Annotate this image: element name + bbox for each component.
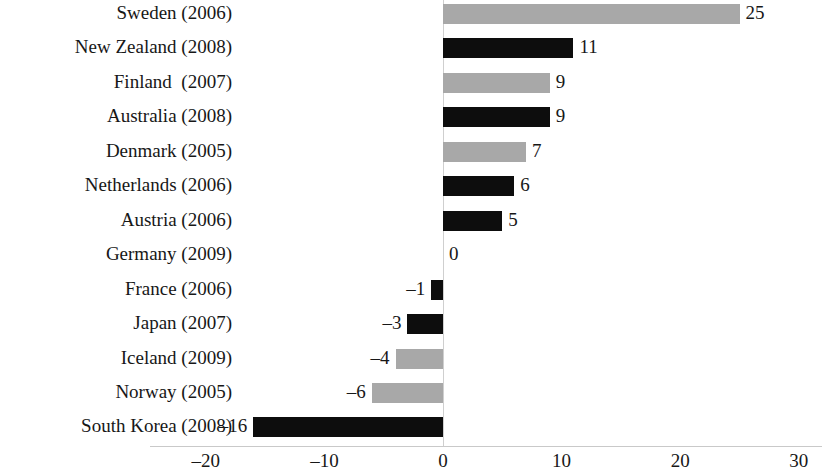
x-tick-label: –20	[192, 450, 221, 471]
bar	[443, 4, 740, 24]
bar-value-label: –1	[406, 279, 425, 299]
bar	[372, 383, 443, 403]
bar	[407, 314, 443, 334]
plot-area: 2511997650–1–3–4–6–16	[0, 0, 825, 447]
bar	[443, 211, 502, 231]
x-tick-label: 10	[552, 450, 571, 471]
x-tick-label: 20	[671, 450, 690, 471]
x-tick-label: 0	[438, 450, 448, 471]
bar-value-label: 9	[556, 106, 566, 126]
bar-value-label: 5	[508, 210, 518, 230]
bar	[443, 176, 514, 196]
bar-value-label: 6	[520, 175, 530, 195]
bar	[443, 73, 550, 93]
bar-value-label: –16	[219, 416, 248, 436]
bar	[443, 107, 550, 127]
bar-chart: Sweden (2006)New Zealand (2008)Finland (…	[0, 0, 825, 473]
bar-value-label: –6	[347, 382, 366, 402]
bar	[443, 142, 526, 162]
bar-value-label: 0	[449, 244, 459, 264]
x-axis-line	[150, 446, 822, 447]
bar-value-label: 9	[556, 72, 566, 92]
bar	[431, 280, 443, 300]
bar-value-label: 7	[532, 141, 542, 161]
x-tick-label: –10	[310, 450, 339, 471]
bar	[443, 38, 573, 58]
x-tick-label: 30	[789, 450, 808, 471]
bar-value-label: 25	[746, 3, 765, 23]
bar	[253, 417, 443, 437]
bar	[396, 349, 443, 369]
bar-value-label: –3	[382, 313, 401, 333]
bar-value-label: –4	[371, 348, 390, 368]
bar-value-label: 11	[579, 37, 597, 57]
